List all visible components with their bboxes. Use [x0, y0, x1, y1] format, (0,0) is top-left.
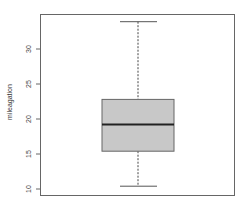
- y-axis-label: mileagation: [6, 84, 13, 120]
- box-plot: [102, 22, 174, 187]
- y-tick-label: 20: [25, 115, 32, 123]
- y-tick-label: 10: [25, 185, 32, 193]
- y-tick-label: 15: [25, 150, 32, 158]
- y-axis: 1015202530: [25, 45, 40, 193]
- boxplot-chart: 1015202530: [0, 0, 248, 212]
- y-tick-label: 25: [25, 80, 32, 88]
- y-tick-label: 30: [25, 45, 32, 53]
